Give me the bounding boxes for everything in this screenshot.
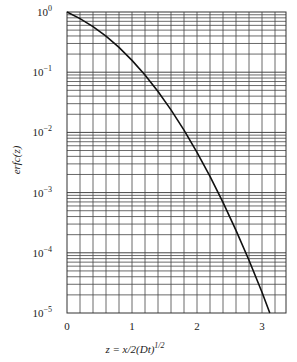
erfc-curve <box>67 12 270 313</box>
x-axis-label: z = x/2(Dt)1/2 <box>104 341 164 356</box>
plot-frame <box>67 12 286 313</box>
y-tick-labels: 10010−110−210−310−410−5 <box>32 4 52 319</box>
y-tick-label: 100 <box>37 4 52 18</box>
x-axis-label-main: z = x/2(Dt) <box>104 343 154 356</box>
erfc-chart: 10010−110−210−310−410−5 0123 erfc(z) z =… <box>0 0 297 362</box>
y-tick-label: 10−5 <box>32 305 52 319</box>
x-tick-label: 0 <box>64 320 70 332</box>
y-tick-label: 10−4 <box>32 245 52 259</box>
x-tick-labels: 0123 <box>64 320 265 332</box>
y-tick-label: 10−3 <box>32 185 52 199</box>
x-tick-label: 1 <box>129 320 135 332</box>
x-axis-label-exp: 1/2 <box>154 341 164 350</box>
grid-lines <box>67 12 286 313</box>
x-tick-label: 3 <box>259 320 265 332</box>
y-tick-label: 10−2 <box>32 124 52 138</box>
y-axis-label: erfc(z) <box>10 145 23 174</box>
y-tick-label: 10−1 <box>32 64 52 78</box>
x-tick-label: 2 <box>194 320 200 332</box>
